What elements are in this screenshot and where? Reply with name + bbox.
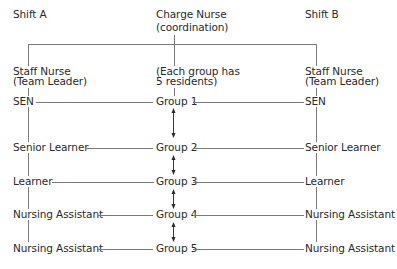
left-role-1: SEN <box>13 96 34 107</box>
group-2: Group 2 <box>156 142 197 153</box>
group-5: Group 5 <box>156 243 197 254</box>
left-role-2: Senior Learner <box>13 142 89 153</box>
left-role-4: Nursing Assistant <box>13 209 103 220</box>
right-drop-line <box>316 44 317 66</box>
left-link-3 <box>52 182 154 183</box>
right-spine-2 <box>316 153 317 176</box>
right-role-2: Senior Learner <box>305 142 381 153</box>
double-arrow-icon <box>170 189 177 209</box>
group-3: Group 3 <box>156 176 197 187</box>
double-arrow-icon <box>170 108 177 138</box>
right-spine-1 <box>316 107 317 142</box>
right-link-3 <box>193 182 304 183</box>
charge-nurse-label: Charge Nurse <box>156 9 227 20</box>
group-1: Group 1 <box>156 96 197 107</box>
shift-b-label: Shift B <box>305 9 339 20</box>
left-spine-4 <box>28 220 29 242</box>
double-arrow-icon <box>170 222 177 242</box>
left-link-2 <box>85 148 153 149</box>
shift-a-label: Shift A <box>13 9 47 20</box>
charge-nurse-role: (coordination) <box>156 22 228 33</box>
right-link-4 <box>193 215 304 216</box>
group-4: Group 4 <box>156 209 197 220</box>
left-drop-line <box>28 44 29 66</box>
right-link-1 <box>193 102 304 103</box>
left-link-5 <box>98 249 153 250</box>
right-role-3: Learner <box>305 176 344 187</box>
center-drop-line <box>174 44 175 66</box>
right-role-4: Nursing Assistant <box>305 209 395 220</box>
double-arrow-icon <box>170 155 177 175</box>
right-spine-3 <box>316 187 317 209</box>
group-note-line2: 5 residents) <box>156 76 217 87</box>
right-role-5: Nursing Assistant <box>305 243 395 254</box>
left-link-1 <box>36 102 153 103</box>
left-spine-2 <box>28 153 29 176</box>
right-team-leader-role: (Team Leader) <box>305 76 379 87</box>
left-spine-3 <box>28 187 29 209</box>
right-role-1: SEN <box>305 96 326 107</box>
left-spine-1 <box>28 107 29 142</box>
right-link-2 <box>193 148 304 149</box>
right-spine-4 <box>316 220 317 242</box>
right-link-5 <box>193 249 304 250</box>
left-role-3: Learner <box>13 176 52 187</box>
left-role-5: Nursing Assistant <box>13 243 103 254</box>
left-team-leader-role: (Team Leader) <box>13 76 87 87</box>
top-connector-line <box>28 44 317 45</box>
left-link-4 <box>98 215 153 216</box>
